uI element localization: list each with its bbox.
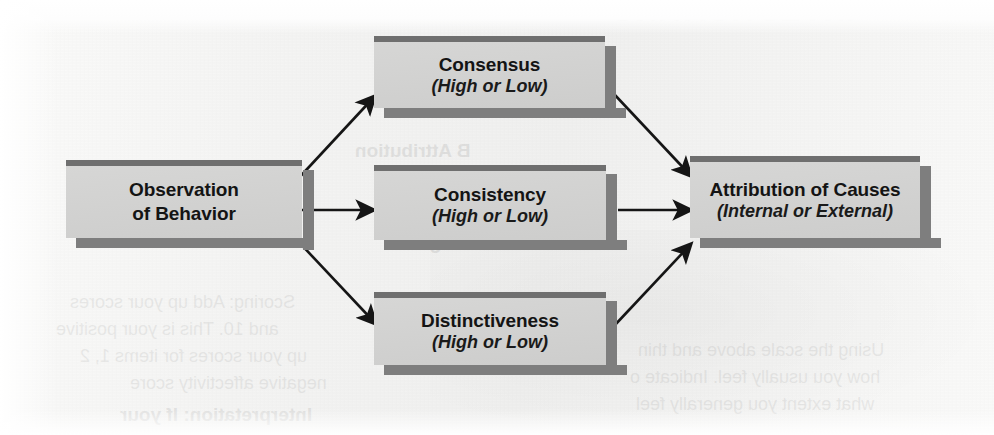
node-subtitle: (High or Low): [432, 76, 548, 97]
node-subtitle: (High or Low): [432, 332, 548, 353]
diagram-page: INVESTIGATING B Attribution 3 Scoring: A…: [0, 0, 994, 435]
node-title-line2: of Behavior: [132, 202, 235, 226]
node-body: Observation of Behavior: [66, 166, 302, 238]
node-shadow-bottom: [384, 108, 626, 118]
node-subtitle: (Internal or External): [717, 201, 893, 222]
page-left-edge: [0, 0, 58, 435]
node-body: Consensus (High or Low): [374, 42, 605, 108]
node-consensus[interactable]: Consensus (High or Low): [374, 36, 620, 122]
page-top-edge: [0, 0, 994, 34]
node-body: Attribution of Causes (Internal or Exter…: [690, 162, 920, 238]
node-title: Observation: [129, 178, 239, 202]
node-distinctiveness[interactable]: Distinctiveness (High or Low): [374, 292, 624, 384]
node-title: Distinctiveness: [421, 310, 559, 332]
node-title: Consistency: [434, 184, 546, 206]
node-body: Distinctiveness (High or Low): [374, 298, 606, 365]
node-shadow-bottom: [384, 365, 627, 375]
node-attribution-of-causes[interactable]: Attribution of Causes (Internal or Exter…: [690, 156, 936, 258]
node-observation-of-behavior[interactable]: Observation of Behavior: [66, 160, 312, 256]
node-shadow-right: [920, 166, 931, 248]
page-bottom-edge: [0, 409, 994, 435]
node-body: Consistency (High or Low): [374, 171, 606, 240]
node-consistency[interactable]: Consistency (High or Low): [374, 165, 624, 257]
node-subtitle: (High or Low): [432, 206, 548, 227]
node-shadow-bottom: [700, 238, 941, 248]
node-title: Attribution of Causes: [709, 179, 900, 201]
node-shadow-bottom: [384, 240, 627, 250]
node-shadow-right: [606, 301, 617, 375]
node-title: Consensus: [439, 54, 541, 76]
node-shadow-right: [606, 174, 617, 250]
node-shadow-bottom: [76, 238, 314, 248]
